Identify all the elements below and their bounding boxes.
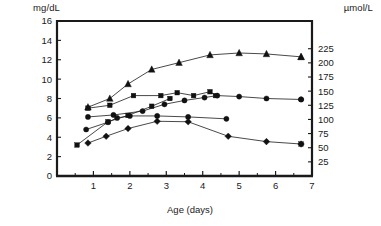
data-point-square: [208, 89, 213, 94]
data-point-circle: [264, 96, 269, 101]
right-tick-label: 175: [318, 71, 334, 82]
right-tick-label: 225: [318, 43, 334, 54]
data-point-diamond: [225, 133, 232, 140]
data-point-square: [168, 96, 173, 101]
right-tick-label: 75: [318, 128, 329, 139]
x-tick-label: 2: [127, 180, 132, 191]
series-triangle: [85, 49, 305, 110]
data-point-triangle: [125, 80, 132, 86]
x-tick-label: 5: [236, 180, 241, 191]
data-point-diamond: [125, 125, 132, 132]
data-point-circle: [162, 102, 167, 107]
data-point-circle: [84, 127, 89, 132]
data-point-circle: [85, 114, 90, 119]
data-point-square: [108, 103, 113, 108]
data-point-diamond: [103, 133, 110, 140]
data-point-diamond: [154, 118, 161, 125]
right-tick-label: 150: [318, 86, 334, 97]
data-point-diamond: [185, 118, 192, 125]
data-point-triangle: [107, 95, 114, 101]
circle-endpoint: [298, 97, 303, 102]
x-axis-title: Age (days): [167, 204, 213, 215]
data-point-square: [126, 113, 131, 118]
left-tick-label: 4: [47, 132, 52, 143]
left-tick-label: 8: [47, 93, 52, 104]
right-tick-label: 50: [318, 142, 329, 153]
x-tick-label: 6: [273, 180, 278, 191]
data-point-circle: [224, 116, 229, 121]
data-point-square: [149, 104, 154, 109]
left-axis-ticks: 0246810121416: [41, 15, 61, 181]
left-tick-label: 12: [41, 54, 52, 65]
data-point-square: [86, 106, 91, 111]
data-point-square: [159, 93, 164, 98]
chart-figure: mg/dL µmol/L 0246810121416 2550751001251…: [0, 0, 381, 226]
x-tick-label: 7: [309, 180, 314, 191]
right-tick-label: 25: [318, 156, 329, 167]
series-polyline: [88, 121, 301, 144]
left-tick-label: 16: [41, 15, 52, 26]
square-endpoint: [299, 142, 304, 147]
right-tick-label: 200: [318, 57, 334, 68]
data-point-square: [191, 93, 196, 98]
data-point-square: [106, 119, 111, 124]
series-diamond-declining: [85, 118, 305, 147]
x-tick-label: 4: [200, 180, 205, 191]
left-tick-label: 14: [41, 35, 52, 46]
chart-plot-area: 0246810121416 255075100125150175200225 1…: [0, 0, 381, 226]
data-point-circle: [202, 95, 207, 100]
data-point-diamond: [263, 138, 270, 145]
data-point-circle: [182, 98, 187, 103]
data-point-square: [75, 143, 80, 148]
left-tick-label: 10: [41, 74, 52, 85]
x-tick-label: 3: [164, 180, 169, 191]
data-point-diamond: [85, 140, 92, 147]
left-tick-label: 6: [47, 112, 52, 123]
data-point-square: [175, 90, 180, 95]
data-point-circle: [237, 94, 242, 99]
data-point-square: [131, 93, 136, 98]
x-axis-ticks: 1234567: [75, 171, 314, 191]
x-tick-label: 1: [91, 180, 96, 191]
data-series-group: [75, 49, 305, 147]
data-point-circle: [215, 93, 220, 98]
left-tick-label: 0: [47, 170, 52, 181]
right-tick-label: 125: [318, 100, 334, 111]
left-tick-label: 2: [47, 151, 52, 162]
right-tick-label: 100: [318, 114, 334, 125]
data-point-triangle: [236, 49, 243, 55]
